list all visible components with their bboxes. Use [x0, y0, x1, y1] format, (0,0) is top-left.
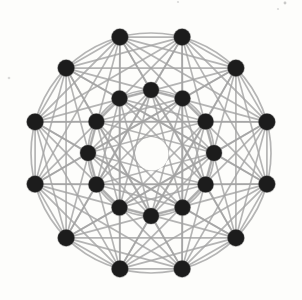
- graph-node-inner: [88, 114, 104, 130]
- graph-node-outer: [228, 230, 245, 247]
- graph-node-inner: [80, 145, 96, 161]
- scan-speck: [177, 1, 179, 3]
- graph-node-inner: [198, 177, 214, 193]
- graph-node-outer: [27, 114, 44, 131]
- graph-node-inner: [143, 82, 159, 98]
- graph-node-outer: [174, 29, 191, 46]
- graph-node-outer: [27, 176, 44, 193]
- graph-node-outer: [259, 114, 276, 131]
- graph-node-inner: [198, 114, 214, 130]
- graph-node-inner: [112, 200, 128, 216]
- graph-node-outer: [112, 29, 129, 46]
- graph-node-outer: [174, 261, 191, 278]
- graph-node-inner: [206, 145, 222, 161]
- network-graph-figure: [0, 0, 302, 300]
- graph-node-outer: [228, 60, 245, 77]
- graph-node-outer: [58, 230, 75, 247]
- graph-node-inner: [175, 200, 191, 216]
- graph-node-outer: [58, 60, 75, 77]
- graph-node-inner: [88, 177, 104, 193]
- graph-node-inner: [143, 208, 159, 224]
- graph-node-inner: [112, 90, 128, 106]
- network-graph: [0, 0, 302, 300]
- graph-node-outer: [259, 176, 276, 193]
- graph-node-outer: [112, 261, 129, 278]
- hub-circle: [136, 138, 169, 171]
- scan-speck: [56, 145, 58, 147]
- scan-speck: [8, 77, 11, 80]
- scan-speck: [277, 8, 279, 10]
- scan-speck: [284, 2, 287, 5]
- graph-node-inner: [175, 90, 191, 106]
